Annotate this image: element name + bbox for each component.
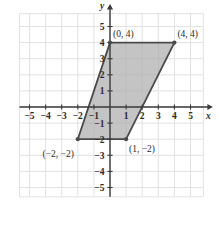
vertex-dot bbox=[108, 41, 112, 45]
x-tick-label: −2 bbox=[73, 111, 83, 121]
vertex-dot bbox=[124, 137, 128, 141]
x-tick-label: −3 bbox=[57, 111, 67, 121]
x-tick-label: 2 bbox=[140, 111, 145, 121]
x-tick-label: −4 bbox=[41, 111, 51, 121]
y-tick-label: −2 bbox=[94, 135, 104, 145]
vertex-dot bbox=[172, 41, 176, 45]
coordinate-plane-svg: −5−4−3−2−11234554321−1−2−3−4−5 x y (0, 4… bbox=[0, 0, 220, 225]
vertex-coordinate-label: (0, 4) bbox=[113, 29, 134, 40]
vertex-coordinate-label: (−2, −2) bbox=[43, 149, 74, 160]
y-tick-label: 3 bbox=[100, 54, 105, 64]
x-tick-label: 3 bbox=[156, 111, 161, 121]
x-tick-label: 5 bbox=[188, 111, 193, 121]
y-tick-label: 5 bbox=[100, 22, 105, 32]
x-tick-label: 1 bbox=[124, 111, 129, 121]
vertex-coordinate-label: (1, −2) bbox=[129, 144, 155, 155]
coordinate-plane-figure: −5−4−3−2−11234554321−1−2−3−4−5 x y (0, 4… bbox=[0, 0, 220, 225]
x-tick-label: −5 bbox=[24, 111, 34, 121]
vertex-coordinate-label: (4, 4) bbox=[177, 29, 198, 40]
y-tick-label: −4 bbox=[94, 167, 104, 177]
y-tick-label: −1 bbox=[94, 119, 104, 129]
y-tick-label: 4 bbox=[100, 38, 105, 48]
y-tick-label: 2 bbox=[100, 70, 105, 80]
y-tick-label: −5 bbox=[94, 183, 104, 193]
x-axis-label: x bbox=[205, 111, 211, 121]
y-tick-label: 1 bbox=[100, 86, 105, 96]
y-axis-label: y bbox=[99, 1, 105, 11]
x-tick-label: 4 bbox=[172, 111, 177, 121]
vertex-dot bbox=[76, 137, 80, 141]
y-tick-label: −3 bbox=[94, 151, 104, 161]
